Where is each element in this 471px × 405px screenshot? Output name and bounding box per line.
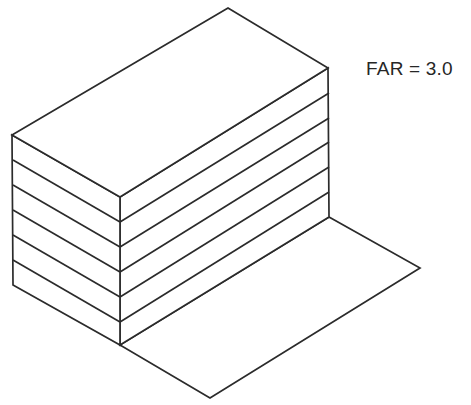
far-value-label: FAR = 3.0 [366,58,453,80]
far-diagram-figure: FAR = 3.0 [0,0,471,405]
